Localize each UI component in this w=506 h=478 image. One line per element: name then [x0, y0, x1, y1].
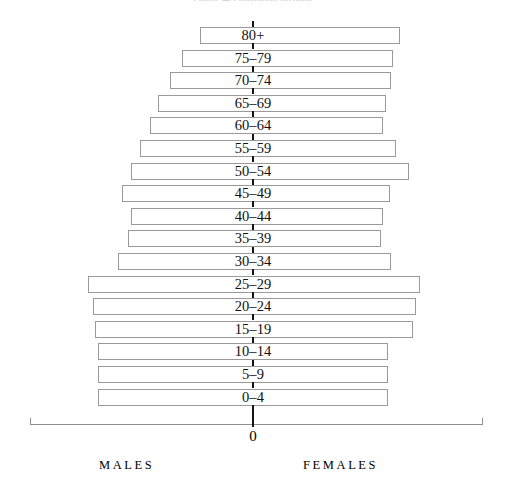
age-band-bar: [158, 95, 386, 112]
center-axis-tick: [252, 269, 254, 275]
center-axis-tick: [252, 201, 254, 207]
age-band-bar: [88, 276, 420, 293]
age-band-bar: [182, 50, 393, 67]
center-axis-tick: [252, 292, 254, 298]
center-axis-tick: [252, 314, 254, 320]
population-pyramid-figure: Figure — Population pyramid 80+75–7970–7…: [0, 0, 506, 478]
age-band-bar: [170, 72, 391, 89]
x-axis-right-cap: [482, 418, 483, 425]
age-band-bar: [131, 208, 383, 225]
pyramid-plot-area: 80+75–7970–7465–6960–6455–5950–5445–4940…: [0, 26, 506, 418]
center-axis-tick: [252, 179, 254, 185]
center-axis-tick: [252, 156, 254, 162]
x-axis-zero-label: 0: [0, 428, 506, 445]
center-axis-tick: [252, 134, 254, 140]
age-band-bar: [95, 321, 413, 338]
age-band-bar: [200, 27, 400, 44]
age-band-bar: [122, 185, 390, 202]
center-axis-tick: [252, 88, 254, 94]
age-band-bar: [131, 163, 409, 180]
age-band-bar: [128, 230, 381, 247]
age-band-bar: [98, 389, 388, 406]
center-axis-tick: [252, 382, 254, 388]
center-axis-tick: [252, 111, 254, 117]
clipped-header-text: Figure — Population pyramid: [0, 0, 506, 1]
age-band-bar: [118, 253, 391, 270]
center-axis-tick: [252, 224, 254, 230]
males-caption: MALES: [99, 458, 154, 473]
age-band-bar: [140, 140, 396, 157]
center-axis-tick: [252, 43, 254, 49]
females-caption: FEMALES: [303, 458, 378, 473]
age-band-bar: [98, 366, 388, 383]
center-axis-tick: [252, 405, 254, 415]
age-band-bar: [150, 117, 383, 134]
center-axis-tick: [252, 21, 254, 27]
x-axis-line: [30, 424, 483, 425]
center-axis-tick: [252, 247, 254, 253]
x-axis-left-cap: [30, 418, 31, 425]
center-axis-tick: [252, 337, 254, 343]
center-axis-tick: [252, 360, 254, 366]
age-band-bar: [98, 343, 388, 360]
center-axis-tick: [252, 66, 254, 72]
x-axis-zero-tick: [252, 415, 254, 427]
age-band-bar: [93, 298, 416, 315]
